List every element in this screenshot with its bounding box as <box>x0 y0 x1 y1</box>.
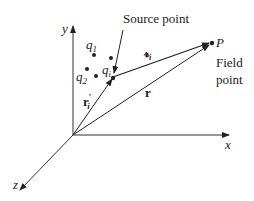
vector-script-r-label: 𝓻i <box>143 46 152 62</box>
vector-r <box>73 45 209 135</box>
coordinate-diagram: y x z q1 q2 qi Source point P Field poin… <box>0 0 254 201</box>
charge-q2-dot <box>85 67 89 71</box>
charge-dot-2 <box>94 74 98 78</box>
field-point-label-line1: Field <box>216 55 243 70</box>
z-axis <box>20 135 73 190</box>
field-point-label-line2: point <box>216 72 243 87</box>
charge-q2-label: q2 <box>76 69 88 86</box>
source-point-pointer <box>114 30 123 73</box>
diagram-svg: y x z q1 q2 qi Source point P Field poin… <box>0 0 254 201</box>
charge-dot <box>109 56 113 60</box>
y-axis-label: y <box>60 21 68 36</box>
z-axis-label: z <box>12 177 18 192</box>
source-point-dot <box>111 76 115 80</box>
vector-script-r <box>113 43 209 77</box>
source-point-label: Source point <box>123 11 189 26</box>
field-point-name: P <box>215 35 224 50</box>
charge-q1-label: q1 <box>86 37 97 54</box>
charge-qi-label: qi <box>102 62 112 79</box>
vector-r-prime <box>73 79 112 135</box>
vector-r-prime-label: r′i <box>83 92 92 111</box>
x-axis-label: x <box>224 137 231 152</box>
field-point-dot <box>210 41 214 45</box>
vector-r-label: r <box>145 85 151 100</box>
